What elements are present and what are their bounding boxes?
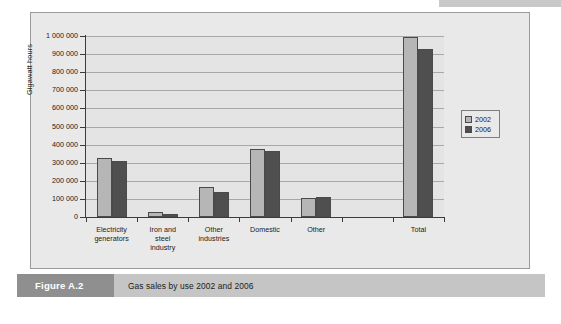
y-tick-label-text: 1 000 000: [26, 32, 78, 40]
legend-swatch-icon: [465, 116, 472, 123]
y-tick-label: 1 000 000: [22, 32, 78, 40]
bar: [250, 149, 265, 217]
y-tick-mark: [80, 90, 85, 91]
y-tick-mark: [80, 163, 85, 164]
x-tick-mark: [291, 218, 292, 222]
y-tick-label-text: 400 000: [26, 141, 78, 149]
y-tick-label: 0: [22, 213, 78, 221]
y-tick-mark: [80, 108, 85, 109]
bar: [214, 192, 229, 217]
category-label: Other: [287, 225, 346, 234]
y-tick-label-text: 500 000: [26, 123, 78, 131]
gridline: [86, 145, 444, 146]
bar: [265, 151, 280, 217]
y-tick-mark: [80, 217, 85, 218]
bar: [301, 198, 316, 217]
gridline: [86, 54, 444, 55]
y-tick-mark: [80, 54, 85, 55]
y-tick-label-text: 600 000: [26, 104, 78, 112]
bar: [199, 187, 214, 217]
y-tick-label-text: 100 000: [26, 195, 78, 203]
y-tick-label: 600 000: [22, 104, 78, 112]
legend-swatch-icon: [465, 126, 472, 133]
figure-caption-bar: Figure A.2 Gas sales by use 2002 and 200…: [17, 274, 545, 297]
y-tick-label: 100 000: [22, 195, 78, 203]
y-tick-label-text: 0: [26, 213, 78, 221]
legend-item: 2006: [465, 124, 495, 134]
y-tick-label-text: 300 000: [26, 159, 78, 167]
x-tick-mark: [137, 218, 138, 222]
gridline: [86, 36, 444, 37]
bar: [316, 197, 331, 217]
bar: [403, 37, 418, 217]
y-axis-title: Gigawatt hours: [25, 44, 34, 95]
figure-caption-text: Gas sales by use 2002 and 2006: [114, 281, 253, 291]
bar: [97, 158, 112, 217]
legend-label: 2006: [475, 125, 491, 134]
y-tick-mark: [80, 72, 85, 73]
x-tick-mark: [188, 218, 189, 222]
y-tick-label: 200 000: [22, 177, 78, 185]
gridline: [86, 108, 444, 109]
y-tick-label: 500 000: [22, 123, 78, 131]
legend-item: 2002: [465, 114, 495, 124]
y-tick-label: 300 000: [22, 159, 78, 167]
y-tick-mark: [80, 199, 85, 200]
figure-number-tag: Figure A.2: [17, 274, 114, 297]
x-tick-mark: [342, 218, 343, 222]
bar: [148, 212, 163, 217]
top-edge-strip: [439, 0, 561, 7]
gridline: [86, 72, 444, 73]
x-tick-mark: [239, 218, 240, 222]
gridline: [86, 127, 444, 128]
x-tick-mark: [86, 218, 87, 222]
chart-legend: 20022006: [461, 110, 500, 138]
legend-label: 2002: [475, 115, 491, 124]
bar: [418, 49, 433, 217]
x-tick-mark: [444, 218, 445, 222]
y-tick-label: 400 000: [22, 141, 78, 149]
x-axis-line: [85, 217, 445, 218]
gridline: [86, 90, 444, 91]
bar: [112, 161, 127, 217]
y-tick-mark: [80, 145, 85, 146]
x-tick-mark: [393, 218, 394, 222]
y-tick-label-text: 200 000: [26, 177, 78, 185]
bar: [163, 214, 178, 217]
y-tick-mark: [80, 36, 85, 37]
y-tick-mark: [80, 181, 85, 182]
category-label: Total: [389, 225, 448, 234]
y-tick-mark: [80, 127, 85, 128]
